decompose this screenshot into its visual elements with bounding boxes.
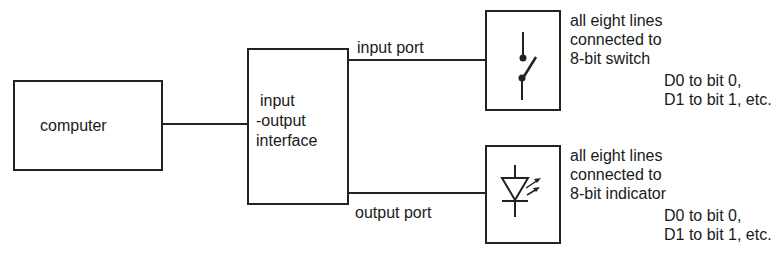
indicator-mapping-line-1: D0 to bit 0,	[664, 206, 741, 225]
switch-mapping-line-1: D0 to bit 0,	[664, 71, 741, 90]
switch-icon	[485, 10, 561, 111]
switch-note-line-1: all eight lines	[570, 11, 663, 30]
output-port-line	[349, 192, 486, 194]
interface-label-line-1: input	[260, 91, 295, 110]
input-port-line	[349, 59, 486, 61]
switch-note-line-3: 8-bit switch	[570, 49, 650, 68]
indicator-note-line-3: 8-bit indicator	[570, 184, 666, 203]
input-port-label: input port	[357, 38, 424, 57]
switch-note-line-2: connected to	[570, 30, 662, 49]
computer-label: computer	[40, 116, 107, 135]
indicator-block	[485, 145, 561, 244]
computer-interface-connector	[163, 123, 249, 125]
indicator-note-line-1: all eight lines	[570, 146, 663, 165]
output-port-label: output port	[355, 203, 432, 222]
interface-label-line-3: interface	[256, 131, 317, 150]
indicator-note-line-2: connected to	[570, 165, 662, 184]
interface-label-line-2: -output	[256, 111, 306, 130]
indicator-mapping-line-2: D1 to bit 1, etc.	[664, 225, 772, 244]
switch-block	[485, 10, 561, 111]
switch-mapping-line-2: D1 to bit 1, etc.	[664, 90, 772, 109]
led-icon	[485, 145, 561, 244]
computer-block: computer	[13, 80, 163, 171]
io-interface-block: input -output interface	[247, 48, 349, 205]
